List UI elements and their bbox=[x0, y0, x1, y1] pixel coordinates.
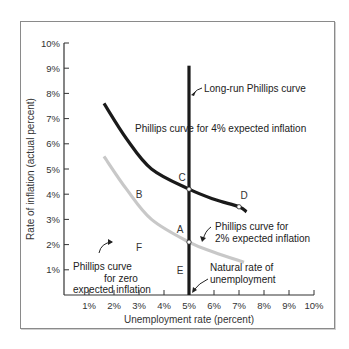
annotation-pc4: Phillips curve for 4% expected inflation bbox=[135, 123, 306, 134]
point-marker-c bbox=[187, 187, 191, 191]
y-tick-label: 7% bbox=[46, 113, 60, 124]
x-axis-title: Unemployment rate (percent) bbox=[124, 314, 254, 325]
y-ticks: 1%2%3%4%5%6%7%8%9%10% bbox=[41, 38, 69, 276]
y-axis-title: Rate of inflation (actual percent) bbox=[25, 98, 36, 240]
x-tick-label: 2% bbox=[107, 300, 121, 311]
x-tick-label: 6% bbox=[207, 300, 221, 311]
y-tick-label: 1% bbox=[46, 264, 60, 275]
point-label-f: F bbox=[136, 242, 142, 253]
point-label-b: B bbox=[136, 189, 143, 200]
arrow-head-icon bbox=[191, 91, 196, 96]
x-tick-label: 7% bbox=[232, 300, 246, 311]
annotation-text: Phillips curve for bbox=[215, 221, 289, 232]
y-tick-label: 2% bbox=[46, 239, 60, 250]
annotation-text: Phillips curve for 4% expected inflation bbox=[135, 123, 306, 134]
annotation-text: for zero bbox=[104, 273, 138, 284]
phillips-curve-chart: 1%2%3%4%5%6%7%8%9%10% 1%2%3%4%5%6%7%8%9%… bbox=[0, 0, 349, 349]
arrow-head-icon bbox=[108, 239, 113, 245]
x-tick-label: 3% bbox=[132, 300, 146, 311]
y-tick-label: 4% bbox=[46, 189, 60, 200]
phillips-curve-2pct-expected bbox=[104, 156, 244, 262]
y-tick-label: 8% bbox=[46, 88, 60, 99]
annotation-text: 2% expected inflation bbox=[215, 233, 310, 244]
y-tick-label: 9% bbox=[46, 63, 60, 74]
point-label-d: D bbox=[240, 190, 247, 201]
point-marker-a bbox=[187, 240, 191, 244]
y-tick-label: 6% bbox=[46, 138, 60, 149]
y-tick-label: 3% bbox=[46, 214, 60, 225]
phillips-curve-4pct-expected bbox=[104, 103, 247, 211]
annotation-text: Natural rate of bbox=[210, 262, 274, 273]
x-tick-label: 1% bbox=[82, 300, 96, 311]
annotation-text: unemployment bbox=[210, 274, 276, 285]
annotation-pc2: Phillips curve for2% expected inflation bbox=[200, 221, 310, 244]
x-tick-label: 8% bbox=[257, 300, 271, 311]
point-label-e: E bbox=[177, 265, 184, 276]
point-label-a: A bbox=[177, 224, 184, 235]
x-tick-label: 4% bbox=[157, 300, 171, 311]
annotation-text: Phillips curve bbox=[73, 261, 132, 272]
y-tick-label: 5% bbox=[46, 164, 60, 175]
x-tick-label: 5% bbox=[182, 300, 196, 311]
annotation-lrpc: Long-run Phillips curve bbox=[191, 83, 306, 96]
annotation-text: expected inflation bbox=[73, 284, 151, 295]
arrow-head-icon bbox=[200, 236, 206, 242]
x-tick-label: 10% bbox=[304, 300, 324, 311]
point-label-c: C bbox=[178, 172, 185, 183]
annotation-text: Long-run Phillips curve bbox=[204, 83, 306, 94]
point-marker-d bbox=[237, 205, 241, 209]
y-tick-label: 10% bbox=[41, 38, 61, 49]
x-tick-label: 9% bbox=[282, 300, 296, 311]
annotation-nru: Natural rate ofunemployment bbox=[192, 262, 276, 293]
